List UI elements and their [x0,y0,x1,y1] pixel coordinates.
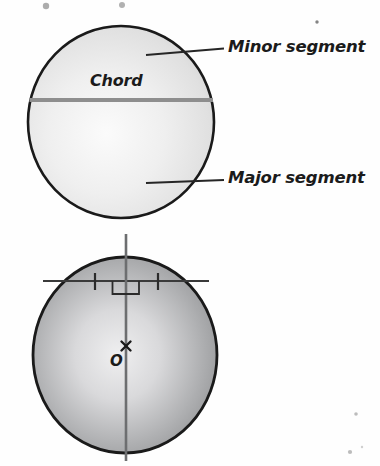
chord-label: Chord [90,71,142,90]
bottom-circle-group [33,234,217,461]
scan-speck-upper-right [315,20,318,23]
scan-speck-top-right [119,2,125,8]
scan-speck-lower-right-a [354,412,358,416]
circle-segments-figure [0,0,380,466]
figure-page: Minor segment Major segment Chord O [0,0,380,466]
top-circle [28,26,214,218]
major-segment-label: Major segment [228,168,365,187]
scan-speck-lower-right-c [361,446,363,448]
minor-segment-label: Minor segment [228,37,365,56]
scan-speck-top-left [43,3,49,9]
top-circle-group [28,26,214,218]
scan-speck-lower-right-b [348,450,352,454]
centre-point-label: O [110,352,123,370]
